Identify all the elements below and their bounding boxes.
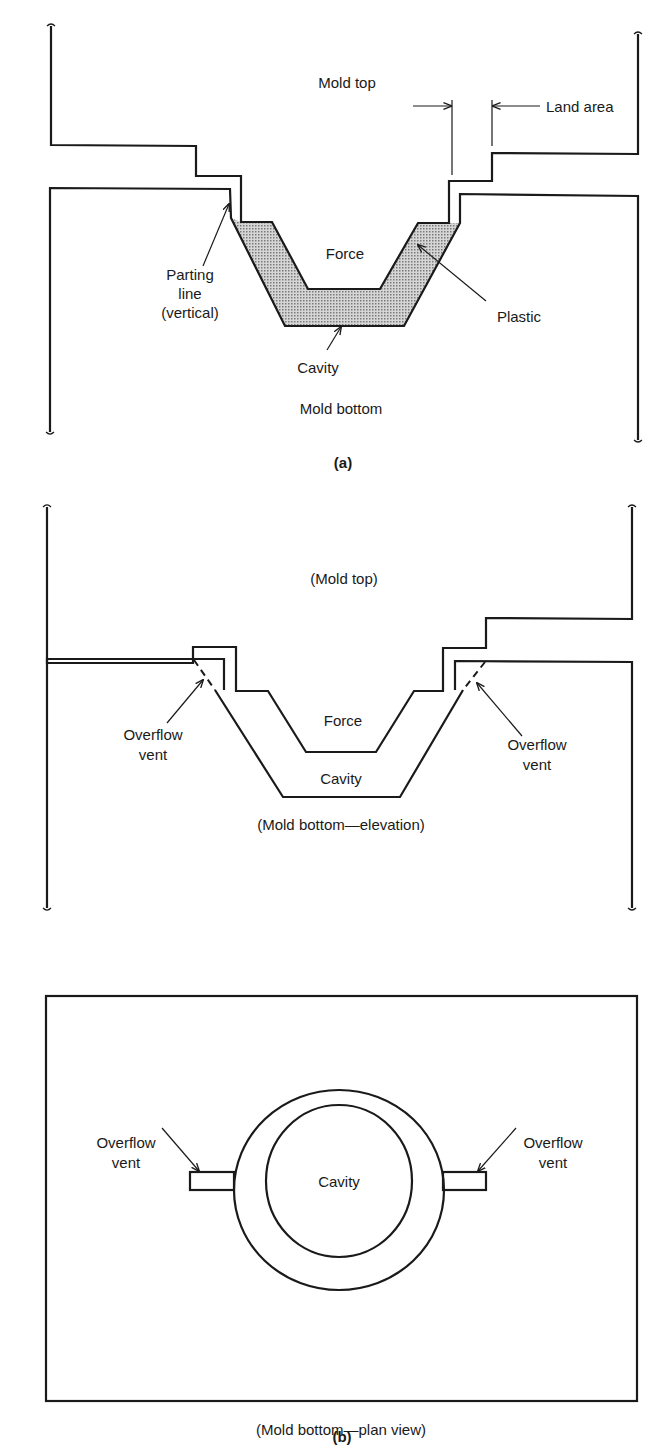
plastic-region xyxy=(231,218,460,326)
label-overflow-vent: vent xyxy=(139,746,168,763)
break-mark-icon xyxy=(46,432,54,434)
label-overflow-vent: Overflow xyxy=(96,1134,155,1151)
label-overflow-vent: vent xyxy=(523,756,552,773)
overflow-vent-right xyxy=(463,662,485,690)
label-mold-top: Mold top xyxy=(318,74,376,91)
break-mark-icon xyxy=(43,505,51,507)
label-overflow-vent: Overflow xyxy=(123,726,182,743)
label-elevation-title: (Mold bottom—elevation) xyxy=(257,816,425,833)
label-land-area: Land area xyxy=(546,98,614,115)
vent-arrow-icon xyxy=(167,680,203,723)
cavity-arrow-icon xyxy=(327,327,341,350)
vent-arrow-icon xyxy=(478,1128,516,1171)
label-plastic: Plastic xyxy=(497,308,542,325)
figure-b-plan: Overflow vent Overflow vent Cavity (Mold… xyxy=(46,996,637,1445)
label-overflow-vent: vent xyxy=(112,1154,141,1171)
parting-line-arrow-icon xyxy=(203,204,229,266)
break-mark-icon xyxy=(634,32,642,34)
mold-bottom-outline xyxy=(47,659,224,908)
label-parting-line: (vertical) xyxy=(161,304,219,321)
figure-b-elevation: (Mold top) Force Cavity Overflow vent Ov… xyxy=(43,505,636,910)
label-cavity: Cavity xyxy=(297,359,339,376)
mold-bottom-outline xyxy=(455,661,632,908)
label-parting-line: Parting xyxy=(166,266,214,283)
label-force: Force xyxy=(326,245,364,262)
mold-bottom-plan-outline xyxy=(46,996,637,1401)
vent-arrow-icon xyxy=(477,683,522,736)
label-mold-bottom: Mold bottom xyxy=(300,400,383,417)
break-mark-icon xyxy=(47,24,55,26)
label-overflow-vent: Overflow xyxy=(523,1134,582,1151)
break-mark-icon xyxy=(628,908,636,910)
label-force: Force xyxy=(324,712,362,729)
label-overflow-vent: Overflow xyxy=(507,736,566,753)
figure-a: Mold top Land area Force Parting line (v… xyxy=(46,24,642,471)
overflow-vent-left xyxy=(194,660,215,690)
label-cavity: Cavity xyxy=(318,1173,360,1190)
label-overflow-vent: vent xyxy=(539,1154,568,1171)
break-mark-icon xyxy=(634,440,642,442)
label-mold-top: (Mold top) xyxy=(310,570,378,587)
compression-mold-diagram: Mold top Land area Force Parting line (v… xyxy=(0,0,659,1451)
overflow-vent-left xyxy=(190,1172,234,1190)
label-cavity: Cavity xyxy=(320,770,362,787)
break-mark-icon xyxy=(43,908,51,910)
break-mark-icon xyxy=(628,505,636,507)
caption-b: (b) xyxy=(332,1428,351,1445)
label-parting-line: line xyxy=(178,285,201,302)
vent-arrow-icon xyxy=(162,1128,199,1171)
overflow-vent-right xyxy=(443,1172,486,1190)
caption-a: (a) xyxy=(334,454,352,471)
